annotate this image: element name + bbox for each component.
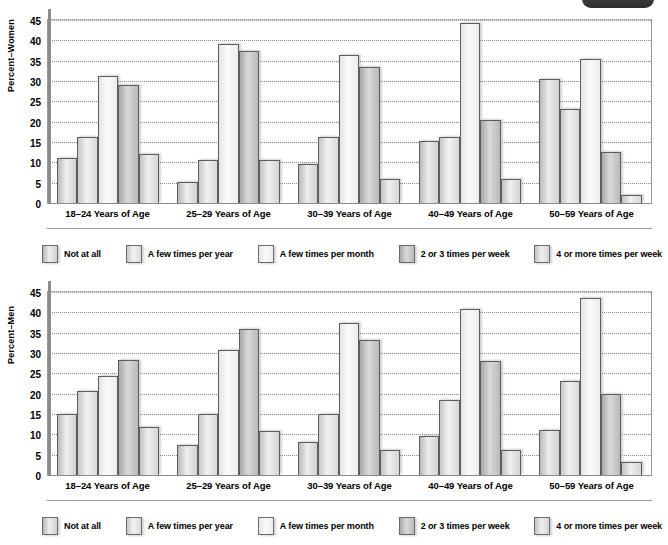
bar[interactable] [139,427,160,475]
bar[interactable] [601,394,622,475]
legend-label: 4 or more times per week [556,249,662,259]
bar-group [298,292,401,475]
legend-item[interactable]: Not at all [42,245,101,263]
y-tick-label: 15 [30,410,41,421]
y-tick-label: 10 [30,158,41,169]
y-tick-label: 35 [30,56,41,67]
bar[interactable] [57,414,78,475]
bar[interactable] [501,179,522,203]
legend-label: 4 or more times per week [556,521,662,531]
legend-item[interactable]: 2 or 3 times per week [399,245,510,263]
bar[interactable] [339,55,360,203]
bar[interactable] [621,462,642,475]
bar[interactable] [560,109,581,203]
bar[interactable] [439,137,460,203]
legend-label: A few times per year [148,521,233,531]
legend-item[interactable]: 4 or more times per week [534,245,662,263]
bar[interactable] [460,309,481,475]
legend-women: Not at allA few times per yearA few time… [42,245,662,263]
bar[interactable] [259,160,280,203]
legend-item[interactable]: 2 or 3 times per week [399,517,510,535]
bar[interactable] [359,67,380,203]
x-axis-label: 30–39 Years of Age [295,208,405,219]
bar[interactable] [419,141,440,203]
bar[interactable] [539,430,560,475]
bar[interactable] [539,79,560,203]
bar[interactable] [480,120,501,203]
bar[interactable] [298,164,319,203]
bar[interactable] [118,360,139,475]
bar[interactable] [380,179,401,203]
bar[interactable] [439,400,460,475]
bar[interactable] [239,51,260,203]
bar[interactable] [77,137,98,203]
bar-group [539,292,642,475]
bar-groups-men [48,292,651,475]
bar-group [57,292,160,475]
chart-panel-women: Percent–Women 051015202530354045 18–24 Y… [0,0,668,272]
bar[interactable] [359,340,380,475]
x-axis-label: 30–39 Years of Age [295,480,405,491]
bar[interactable] [259,431,280,475]
gridline: 0 [48,203,651,204]
bar[interactable] [177,182,198,203]
bar[interactable] [118,85,139,203]
x-axis-label: 25–29 Years of Age [174,480,284,491]
bar[interactable] [298,442,319,475]
panel-divider-women [47,228,652,229]
bar[interactable] [560,381,581,475]
legend-label: A few times per month [280,249,374,259]
bar-group [177,20,280,203]
y-tick-label: 0 [35,471,41,482]
y-tick-label: 40 [30,308,41,319]
bar[interactable] [601,152,622,203]
bar[interactable] [218,350,239,475]
bar[interactable] [339,323,360,475]
bar[interactable] [198,160,219,203]
bar[interactable] [139,154,160,203]
bar[interactable] [501,450,522,475]
gridline: 0 [48,475,651,476]
legend-swatch-icon [399,517,415,535]
bar[interactable] [77,391,98,475]
plot-area-men: 051015202530354045 [47,291,652,476]
y-tick-label: 20 [30,117,41,128]
bar[interactable] [580,298,601,475]
bar[interactable] [419,436,440,475]
bar[interactable] [580,59,601,203]
legend-item[interactable]: A few times per year [126,517,233,535]
x-axis-labels-women: 18–24 Years of Age25–29 Years of Age30–3… [47,208,652,219]
legend-swatch-icon [42,245,58,263]
x-axis-label: 50–59 Years of Age [537,480,647,491]
bar[interactable] [318,414,339,475]
legend-item[interactable]: Not at all [42,517,101,535]
x-axis-label: 50–59 Years of Age [537,208,647,219]
bar-group [419,20,522,203]
y-tick-label: 40 [30,36,41,47]
bar[interactable] [98,376,119,475]
bar[interactable] [57,158,78,203]
legend-swatch-icon [534,517,550,535]
legend-item[interactable]: A few times per month [258,245,374,263]
bar[interactable] [380,450,401,475]
legend-label: A few times per month [280,521,374,531]
bar[interactable] [480,361,501,475]
y-tick-label: 30 [30,77,41,88]
bar[interactable] [98,76,119,203]
y-tick-label: 25 [30,97,41,108]
x-axis-label: 40–49 Years of Age [416,208,526,219]
bar[interactable] [218,44,239,203]
bar[interactable] [239,329,260,475]
bar[interactable] [318,137,339,203]
legend-item[interactable]: A few times per month [258,517,374,535]
legend-item[interactable]: 4 or more times per week [534,517,662,535]
bar[interactable] [198,414,219,475]
legend-label: 2 or 3 times per week [421,521,510,531]
bar[interactable] [177,445,198,475]
bar[interactable] [621,195,642,203]
legend-swatch-icon [258,517,274,535]
y-axis-label-women: Percent–Women [6,19,16,92]
bar[interactable] [460,23,481,203]
chart-panel-men: Percent–Men 051015202530354045 18–24 Yea… [0,272,668,544]
legend-item[interactable]: A few times per year [126,245,233,263]
